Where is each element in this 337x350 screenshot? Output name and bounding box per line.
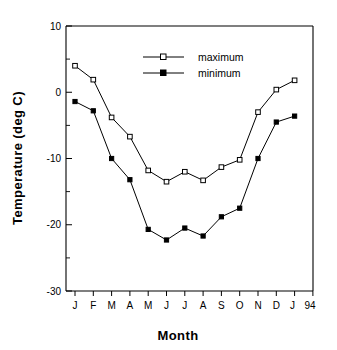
x-tick-label: M bbox=[107, 300, 115, 311]
y-axis-ticks bbox=[66, 26, 72, 291]
x-tick-label: A bbox=[200, 300, 207, 311]
y-tick-label: 0 bbox=[55, 87, 61, 98]
x-tick-label: A bbox=[127, 300, 134, 311]
x-tick-label: J bbox=[182, 300, 187, 311]
x-axis-ticks bbox=[75, 291, 313, 296]
data-point-maximum-M bbox=[146, 168, 151, 173]
chart-legend: maximum minimum bbox=[143, 51, 244, 79]
data-point-minimum-J bbox=[183, 226, 187, 230]
x-tick-label: J bbox=[290, 300, 295, 311]
legend-label-minimum: minimum bbox=[198, 67, 241, 79]
temperature-line-chart: 10 0 -10 -20 -30 J F M bbox=[0, 0, 337, 350]
data-series-layer bbox=[73, 63, 297, 242]
data-point-maximum-J bbox=[73, 63, 78, 68]
y-tick-labels: 10 0 -10 -20 -30 bbox=[47, 21, 62, 297]
x-tick-label: J bbox=[73, 300, 78, 311]
data-point-maximum-F bbox=[91, 77, 96, 82]
legend-entry-minimum: minimum bbox=[143, 67, 241, 79]
data-point-maximum-A bbox=[201, 178, 206, 183]
data-point-maximum-D bbox=[274, 87, 279, 92]
x-tick-label: N bbox=[254, 300, 261, 311]
data-point-minimum-D bbox=[274, 120, 278, 124]
data-point-maximum-N bbox=[256, 110, 261, 115]
data-point-maximum-J bbox=[183, 169, 188, 174]
plot-frame bbox=[66, 26, 313, 291]
legend-marker-filled-square bbox=[161, 70, 167, 76]
x-axis-title: Month bbox=[158, 328, 199, 343]
data-point-minimum-S bbox=[219, 215, 223, 219]
data-point-maximum-O bbox=[237, 158, 242, 163]
x-tick-label: S bbox=[218, 300, 225, 311]
data-point-minimum-A bbox=[201, 234, 205, 238]
data-point-minimum-A bbox=[128, 178, 132, 182]
data-point-maximum-S bbox=[219, 165, 224, 170]
legend-marker-open-square bbox=[161, 54, 167, 60]
series-maximum bbox=[73, 63, 297, 184]
x-tick-label: M bbox=[144, 300, 152, 311]
series-line-maximum bbox=[75, 66, 295, 182]
x-tick-label: F bbox=[90, 300, 96, 311]
data-point-maximum-J bbox=[292, 78, 297, 83]
x-tick-labels: J F M A M J J A S O N D J 94 bbox=[73, 300, 316, 311]
data-point-maximum-J bbox=[164, 179, 169, 184]
data-point-minimum-O bbox=[238, 206, 242, 210]
data-point-maximum-A bbox=[128, 134, 133, 139]
y-axis-title: Temperature (deg C) bbox=[10, 91, 25, 225]
x-tick-label: J bbox=[164, 300, 169, 311]
data-point-minimum-J bbox=[164, 238, 168, 242]
data-point-minimum-N bbox=[256, 156, 260, 160]
data-point-minimum-J bbox=[293, 114, 297, 118]
x-tick-label: D bbox=[273, 300, 280, 311]
y-tick-label: -20 bbox=[47, 219, 62, 230]
x-tick-label: O bbox=[236, 300, 244, 311]
data-point-minimum-M bbox=[110, 156, 114, 160]
chart-figure: 10 0 -10 -20 -30 J F M bbox=[0, 0, 337, 350]
y-tick-label: -10 bbox=[47, 153, 62, 164]
data-point-maximum-M bbox=[109, 115, 114, 120]
legend-label-maximum: maximum bbox=[198, 51, 244, 63]
data-point-minimum-M bbox=[146, 227, 150, 231]
data-point-minimum-F bbox=[91, 109, 95, 113]
y-tick-label: 10 bbox=[50, 21, 62, 32]
data-point-minimum-J bbox=[73, 99, 77, 103]
x-tick-label: 94 bbox=[304, 300, 316, 311]
legend-entry-maximum: maximum bbox=[143, 51, 244, 63]
y-tick-label: -30 bbox=[47, 286, 62, 297]
